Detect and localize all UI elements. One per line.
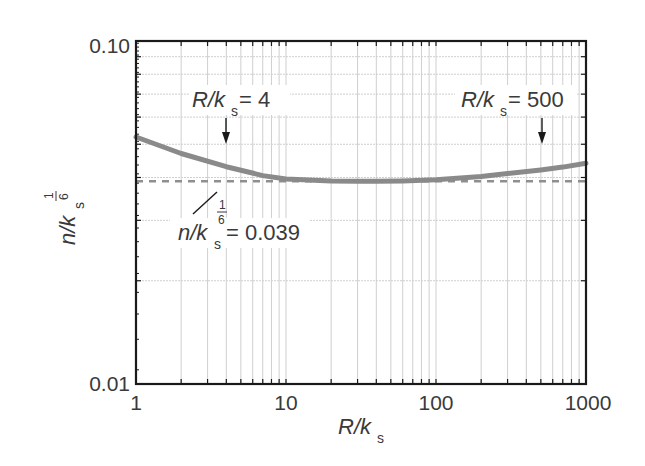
data-series (136, 137, 586, 181)
annotation-rks-500-sub: s (500, 103, 507, 119)
x-tick-label-10: 10 (274, 391, 297, 414)
annotation-rks-500-main: R/k (461, 87, 495, 112)
annotation-n-ks-rest: = 0.039 (226, 220, 300, 245)
data-curve (136, 137, 586, 181)
arrow-down-icon (222, 132, 230, 144)
annotation-n-ks-exp-den: 6 (218, 213, 225, 227)
y-tick-label-bottom: 0.01 (89, 372, 130, 395)
annotation-rks-500: R/k s = 500 (455, 85, 577, 144)
y-tick-label-top: 0.10 (89, 34, 130, 57)
y-axis-label-exp-num: 1 (42, 192, 56, 199)
y-axis-label: n/k s 1 6 (42, 191, 87, 245)
annotation-rks-4-sub: s (231, 103, 238, 119)
annotation-n-ks-sub: s (214, 236, 221, 252)
x-axis-label-sub: s (377, 430, 384, 446)
annotation-rks-500-rest: = 500 (508, 87, 564, 112)
annotation-n-ks-0039: n/k s 1 6 = 0.039 (170, 192, 310, 252)
x-tick-label-100: 100 (418, 391, 453, 414)
chart: 0.10 0.01 1 10 100 1000 R/k s n/k s 1 6 … (0, 0, 645, 466)
y-axis-label-main: n/k (55, 215, 80, 245)
annotation-rks-4-main: R/k (192, 87, 226, 112)
annotation-n-ks-main: n/k (178, 220, 208, 245)
y-axis-label-exp-den: 6 (57, 193, 71, 200)
x-tick-label-1: 1 (130, 391, 142, 414)
annotation-rks-4-rest: = 4 (239, 87, 270, 112)
arrow-down-icon (538, 132, 546, 144)
pointer-line (193, 192, 217, 214)
x-axis-label: R/k s (338, 414, 384, 446)
x-axis-label-main: R/k (338, 414, 372, 439)
y-axis-label-sub: s (71, 202, 87, 209)
annotation-rks-4: R/k s = 4 (190, 85, 290, 144)
annotation-n-ks-exp-num: 1 (219, 198, 226, 212)
x-tick-label-1000: 1000 (565, 391, 612, 414)
